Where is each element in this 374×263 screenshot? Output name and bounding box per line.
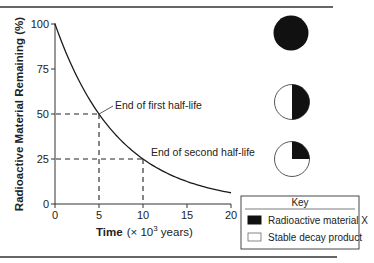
- x-ticks: 0 5 10 15 20: [52, 204, 237, 221]
- y-ticks: 100 75 50 25 0: [31, 18, 55, 210]
- legend-swatch-stable: [248, 233, 261, 241]
- x-tick-5: 5: [96, 209, 102, 221]
- x-tick-10: 10: [137, 209, 149, 221]
- first-half-life-leader: [99, 106, 113, 114]
- legend-label-radioactive: Radioactive material X: [268, 215, 368, 226]
- axes: [55, 23, 231, 204]
- x-axis-title: Time(× 103 years): [96, 224, 193, 238]
- y-tick-50: 50: [37, 108, 49, 120]
- second-half-life-label: End of second half-life: [151, 146, 255, 158]
- first-half-life-label: End of first half-life: [115, 99, 202, 111]
- x-tick-15: 15: [181, 209, 193, 221]
- pie-icon-quarter: [275, 142, 310, 177]
- x-tick-20: 20: [225, 209, 237, 221]
- x-tick-0: 0: [52, 209, 58, 221]
- half-life-reference-lines: [56, 114, 143, 204]
- x-axis-title-tail: years): [158, 226, 193, 238]
- y-tick-100: 100: [31, 18, 49, 30]
- pie-icon-half: [275, 85, 310, 120]
- half-life-chart: Radioactive Material Remaining (%) 100 7…: [0, 0, 374, 263]
- legend-swatch-radioactive: [248, 216, 261, 224]
- y-tick-25: 25: [37, 153, 49, 165]
- pie-icon-full: [274, 16, 309, 51]
- y-tick-75: 75: [37, 63, 49, 75]
- legend-label-stable: Stable decay product: [268, 232, 362, 243]
- legend-title: Key: [291, 197, 308, 208]
- x-axis-title-bold: Time: [96, 226, 123, 238]
- x-axis-title-unit: (× 10: [127, 226, 154, 238]
- legend: Key Radioactive material X Stable decay …: [241, 196, 368, 249]
- y-axis-title: Radioactive Material Remaining (%): [13, 17, 25, 211]
- y-tick-0: 0: [43, 198, 49, 210]
